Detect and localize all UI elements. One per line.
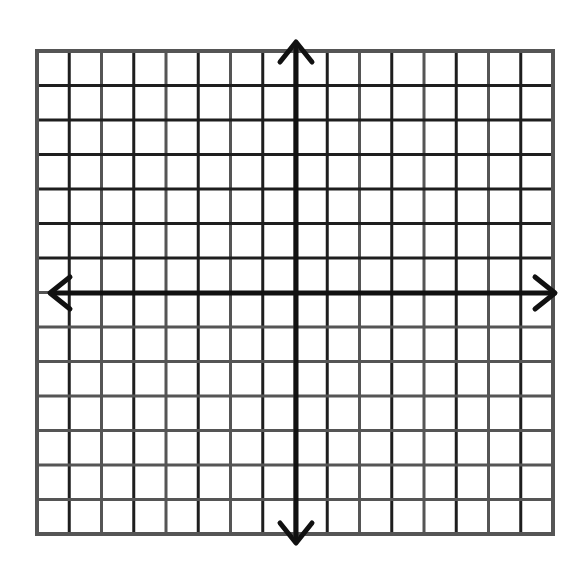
axes bbox=[50, 42, 555, 543]
coordinate-plane bbox=[0, 0, 584, 574]
